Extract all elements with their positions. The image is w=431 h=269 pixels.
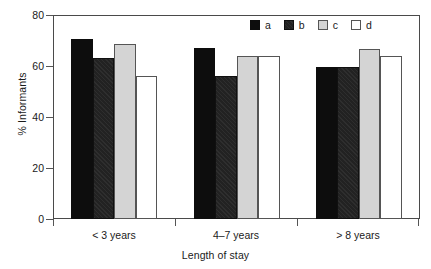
- bar-c-0: [114, 44, 136, 219]
- y-tick-mark-0: [46, 219, 53, 220]
- x-category-label-0: < 3 years: [54, 229, 174, 241]
- y-tick-label-20: 20: [18, 163, 44, 174]
- x-category-label-2: > 8 years: [298, 229, 418, 241]
- y-tick-mark-40: [46, 117, 53, 118]
- legend-swatch-light-gray: [318, 20, 328, 30]
- bar-b-2: [337, 67, 359, 219]
- legend-label-c: c: [333, 20, 338, 31]
- bar-a-2: [316, 67, 338, 219]
- y-tick-label-40: 40: [18, 112, 44, 123]
- bar-b-1: [215, 76, 237, 219]
- y-tick-label-80: 80: [18, 10, 44, 21]
- x-axis-title: Length of stay: [0, 249, 431, 261]
- bar-d-1: [258, 56, 280, 219]
- x-tick-mark-2: [297, 219, 298, 226]
- legend-item-a: a: [250, 20, 271, 31]
- legend-label-b: b: [299, 20, 305, 31]
- x-axis-tick-marks: [53, 219, 420, 227]
- bar-c-2: [359, 49, 381, 219]
- bar-d-0: [136, 76, 158, 219]
- bar-chart: % Informants 80 60 40 20 0 < 3 years 4–7…: [0, 0, 431, 269]
- legend: abcd: [250, 20, 372, 31]
- legend-item-b: b: [284, 20, 305, 31]
- legend-swatch-black: [250, 20, 260, 30]
- x-tick-mark-3: [418, 219, 419, 226]
- y-tick-mark-20: [46, 168, 53, 169]
- y-tick-mark-60: [46, 66, 53, 67]
- legend-item-d: d: [351, 20, 372, 31]
- legend-swatch-white: [351, 20, 361, 30]
- bars-layer: [53, 15, 420, 219]
- y-tick-label-0: 0: [18, 214, 44, 225]
- x-tick-mark-1: [175, 219, 176, 226]
- bar-a-1: [194, 48, 216, 219]
- y-tick-label-60: 60: [18, 61, 44, 72]
- x-tick-mark-0: [53, 219, 54, 226]
- y-tick-mark-80: [46, 15, 53, 16]
- legend-label-a: a: [265, 20, 271, 31]
- bar-c-1: [237, 56, 259, 219]
- bar-b-0: [93, 58, 115, 219]
- bar-d-2: [380, 56, 402, 219]
- legend-swatch-dark-gray: [284, 20, 294, 30]
- x-category-label-1: 4–7 years: [176, 229, 296, 241]
- legend-item-c: c: [318, 20, 338, 31]
- bar-a-0: [71, 39, 93, 219]
- y-axis-tick-labels: 80 60 40 20 0: [14, 0, 44, 269]
- legend-label-d: d: [366, 20, 372, 31]
